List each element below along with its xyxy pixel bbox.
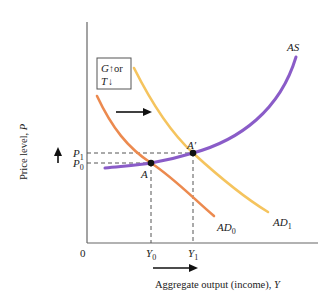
ad1-label: AD1 (272, 216, 292, 231)
y-axis-title: Price level, P (18, 123, 29, 180)
box-t-label: T (101, 75, 108, 87)
box-or-label: or (114, 63, 123, 74)
ad0-label: AD0 (216, 221, 236, 236)
point-a-dot (148, 160, 155, 167)
output-increase-arrow (153, 264, 198, 272)
ad-as-diagram: G ↑ or T ↓ P1 P0 0 Y0 Y1 A A′ AS AD0 AD1… (0, 0, 331, 294)
origin-label: 0 (80, 247, 86, 259)
y0-label: Y0 (146, 247, 156, 262)
as-label: AS (286, 41, 300, 53)
box-g-label: G (101, 62, 109, 74)
down-arrow-glyph: ↓ (108, 76, 113, 87)
price-increase-arrow (54, 147, 62, 163)
x-axis-title: Aggregate output (income), Y (155, 279, 281, 291)
y1-label: Y1 (188, 247, 198, 262)
point-a-prime-label: A′ (186, 139, 197, 151)
point-a-label: A (140, 168, 148, 180)
guide-lines (87, 153, 193, 243)
ad-shift-arrow (116, 108, 152, 116)
ad1-curve (134, 68, 268, 212)
